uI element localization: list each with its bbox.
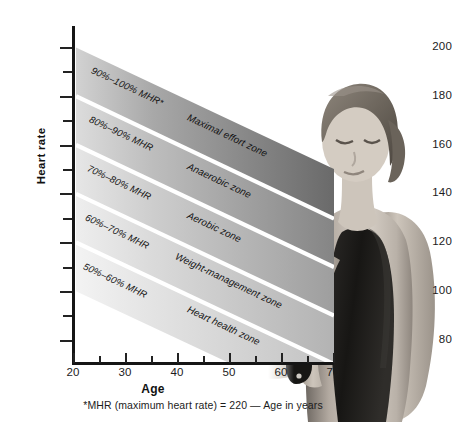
x-tick-25 [99, 356, 101, 363]
plot-area: 90%–100% MHR* 80%–90% MHR 70%–80% MHR 60… [76, 28, 334, 364]
y-tick-label-80: 80 [392, 333, 452, 345]
mhr-footnote: *MHR (maximum heart rate) = 220 — Age in… [38, 399, 368, 411]
y-tick-140 [60, 193, 72, 195]
y-axis-title: Heart rate [35, 111, 47, 201]
y-tick-label-100: 100 [392, 284, 452, 296]
x-axis-title: Age [103, 382, 203, 396]
x-tick-label-20: 20 [53, 366, 93, 378]
x-tick-20 [73, 353, 75, 363]
y-tick-110 [63, 267, 72, 269]
y-tick-100 [60, 291, 72, 293]
y-tick-label-140: 140 [392, 186, 452, 198]
y-tick-170 [63, 120, 72, 122]
x-tick-60 [281, 353, 283, 363]
y-tick-120 [60, 242, 72, 244]
heart-rate-zone-figure: 90%–100% MHR* 80%–90% MHR 70%–80% MHR 60… [0, 0, 452, 422]
y-tick-200 [60, 47, 72, 49]
x-tick-55 [255, 356, 257, 363]
y-axis-line [72, 26, 75, 365]
neck [338, 176, 378, 231]
y-tick-150 [63, 169, 72, 171]
y-tick-160 [60, 145, 72, 147]
y-tick-190 [63, 71, 72, 73]
x-tick-label-60: 60 [261, 366, 301, 378]
x-tick-label-40: 40 [157, 366, 197, 378]
y-tick-label-200: 200 [392, 40, 452, 52]
y-tick-label-160: 160 [392, 138, 452, 150]
x-tick-label-70: 70 [313, 366, 353, 378]
x-tick-label-50: 50 [209, 366, 249, 378]
y-tick-80 [60, 340, 72, 342]
x-tick-40 [177, 353, 179, 363]
x-tick-65 [307, 356, 309, 363]
y-tick-180 [60, 96, 72, 98]
y-tick-label-180: 180 [392, 89, 452, 101]
x-tick-50 [229, 353, 231, 363]
x-tick-label-30: 30 [105, 366, 145, 378]
x-tick-30 [125, 353, 127, 363]
y-tick-label-120: 120 [392, 235, 452, 247]
x-tick-45 [203, 356, 205, 363]
x-tick-70 [333, 353, 335, 363]
x-tick-35 [151, 356, 153, 363]
y-tick-90 [63, 315, 72, 317]
y-tick-130 [63, 218, 72, 220]
